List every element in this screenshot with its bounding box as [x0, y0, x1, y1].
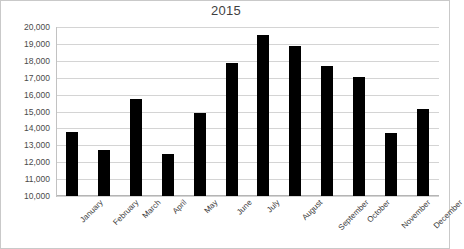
bar[interactable]	[257, 35, 269, 196]
bar-series	[56, 27, 439, 196]
chart-title: 2015	[1, 3, 451, 18]
bar[interactable]	[321, 66, 333, 196]
x-axis-tick-label: August	[301, 198, 325, 222]
bar[interactable]	[417, 109, 429, 196]
bar[interactable]	[226, 63, 238, 196]
bar[interactable]	[353, 77, 365, 196]
x-axis-tick-label: March	[140, 198, 162, 220]
x-axis-tick-label: May	[202, 198, 219, 215]
x-axis-tick-label: February	[111, 198, 140, 227]
gridline	[56, 196, 439, 197]
y-axis-tick-label: 17,000	[4, 73, 50, 83]
x-axis-tick-label: December	[432, 198, 464, 230]
bar[interactable]	[162, 154, 174, 196]
y-axis-tick-label: 18,000	[4, 56, 50, 66]
y-axis-tick-label: 13,000	[4, 140, 50, 150]
x-axis-tick-label: September	[337, 198, 371, 232]
bar[interactable]	[289, 46, 301, 196]
bar[interactable]	[66, 132, 78, 196]
x-axis-tick-label: July	[266, 198, 282, 214]
bar[interactable]	[385, 133, 397, 196]
x-axis-category-labels: JanuaryFebruaryMarchAprilMayJuneJulyAugu…	[56, 198, 439, 249]
y-axis-tick-label: 19,000	[4, 39, 50, 49]
x-axis-tick-label: October	[366, 198, 392, 224]
y-axis-tick-label: 12,000	[4, 157, 50, 167]
y-axis-tick-label: 10,000	[4, 191, 50, 201]
x-axis-tick-label: January	[78, 198, 104, 224]
bar[interactable]	[98, 150, 110, 196]
x-axis-tick-label: April	[170, 198, 188, 216]
y-axis-tick-label: 20,000	[4, 22, 50, 32]
y-axis-tick-label: 14,000	[4, 123, 50, 133]
x-axis-tick-label: June	[235, 198, 254, 217]
y-axis-tick-label: 16,000	[4, 90, 50, 100]
bar[interactable]	[194, 113, 206, 196]
y-axis-tick-label: 15,000	[4, 107, 50, 117]
bar[interactable]	[130, 99, 142, 196]
x-axis-tick-label: November	[400, 198, 432, 230]
y-axis-tick-label: 11,000	[4, 174, 50, 184]
